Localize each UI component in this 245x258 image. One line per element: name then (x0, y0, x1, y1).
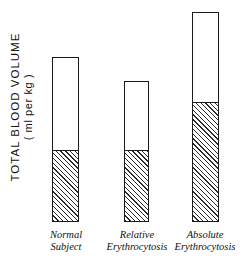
bar-normal-subject-hatched-segment (53, 150, 78, 221)
bar-normal-subject (52, 57, 79, 223)
bar-absolute-erythrocytosis (192, 12, 219, 222)
bar-absolute-erythrocytosis-hatched-segment (193, 102, 218, 221)
category-label-line1: Absolute (164, 229, 245, 241)
category-label-normal-subject: Normal Subject (28, 229, 104, 252)
category-label-line1: Normal (28, 229, 104, 241)
blood-volume-bar-chart: TOTAL BLOOD VOLUME ( ml per kg ) Normal … (0, 0, 245, 258)
category-label-line2: Erythrocytosis (164, 241, 245, 253)
category-label-absolute-erythrocytosis: Absolute Erythrocytosis (164, 229, 245, 252)
plot-area (0, 0, 245, 258)
bar-relative-erythrocytosis (124, 81, 149, 222)
category-label-line2: Subject (28, 241, 104, 253)
bar-relative-erythrocytosis-hatched-segment (125, 150, 148, 221)
